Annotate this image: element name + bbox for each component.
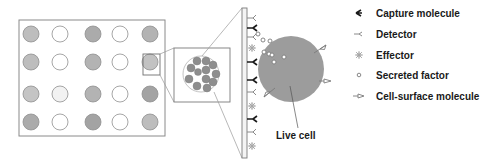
legend-label-detector: Detector bbox=[376, 29, 417, 40]
well bbox=[52, 114, 68, 130]
legend-label-effector: Effector bbox=[376, 50, 414, 61]
well bbox=[142, 26, 158, 42]
well bbox=[142, 54, 158, 70]
well bbox=[142, 86, 158, 102]
effector-icon bbox=[355, 51, 363, 59]
well bbox=[52, 54, 68, 70]
legend-label-cell-surface-molecule: Cell-surface molecule bbox=[376, 91, 479, 102]
well bbox=[112, 86, 128, 102]
diagram-canvas bbox=[0, 0, 498, 166]
well bbox=[112, 54, 128, 70]
well bbox=[23, 54, 39, 70]
surface-molecules bbox=[247, 15, 257, 150]
well bbox=[52, 26, 68, 42]
well bbox=[85, 86, 101, 102]
well bbox=[85, 26, 101, 42]
well bbox=[85, 54, 101, 70]
capture-molecule-icon bbox=[356, 10, 362, 16]
well bbox=[112, 114, 128, 130]
live-cell-label: Live cell bbox=[276, 130, 315, 141]
cell-surface-molecule-icon bbox=[353, 94, 364, 98]
substrate-strip bbox=[242, 8, 247, 158]
well bbox=[23, 114, 39, 130]
legend-label-capture-molecule: Capture molecule bbox=[376, 8, 460, 19]
legend-icons bbox=[353, 10, 364, 98]
well bbox=[23, 26, 39, 42]
well bbox=[85, 114, 101, 130]
well bbox=[23, 86, 39, 102]
detector-icon bbox=[354, 32, 362, 36]
well bbox=[52, 86, 68, 102]
well bbox=[142, 114, 158, 130]
legend-label-secreted-factor: Secreted factor bbox=[376, 70, 449, 81]
secreted-factor-icon bbox=[357, 73, 361, 77]
well bbox=[112, 26, 128, 42]
